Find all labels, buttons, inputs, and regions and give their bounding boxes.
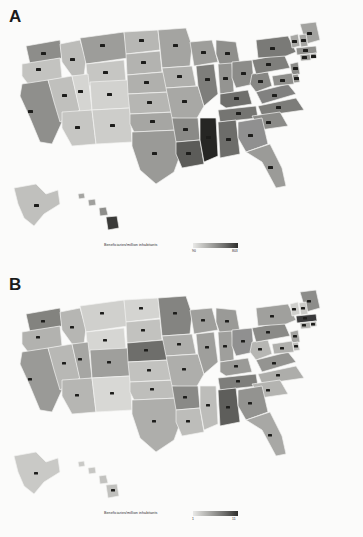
state-marker	[141, 61, 146, 64]
state-mt	[80, 300, 128, 332]
state-marker	[223, 77, 228, 80]
state-marker	[234, 97, 239, 100]
state-marker	[201, 319, 205, 322]
state-hi-3	[99, 475, 108, 484]
state-marker	[78, 358, 82, 361]
states-group-a	[14, 22, 320, 230]
state-marker	[201, 51, 206, 54]
state-marker	[110, 124, 115, 127]
state-ms	[200, 386, 218, 430]
state-marker	[293, 335, 297, 338]
state-marker	[293, 67, 298, 70]
state-marker	[182, 368, 186, 371]
state-marker	[226, 406, 230, 409]
state-marker	[111, 489, 115, 492]
state-marker	[182, 100, 187, 103]
state-marker	[141, 329, 145, 332]
state-marker	[206, 404, 210, 407]
state-marker	[302, 56, 307, 59]
state-marker	[205, 78, 210, 81]
state-hi-2	[88, 199, 96, 206]
state-marker	[236, 112, 241, 115]
state-ny	[256, 304, 296, 326]
panel-a: A	[0, 0, 363, 268]
state-marker	[268, 166, 273, 169]
state-marker	[62, 94, 67, 97]
us-choropleth-a	[0, 18, 363, 250]
state-marker	[139, 39, 144, 42]
state-marker	[258, 80, 263, 83]
state-marker	[272, 362, 276, 365]
state-marker	[28, 378, 32, 381]
state-marker	[147, 369, 151, 372]
state-marker	[110, 392, 114, 395]
state-marker	[276, 106, 281, 109]
state-marker	[186, 420, 190, 423]
state-marker	[280, 79, 285, 82]
state-marker	[28, 110, 33, 113]
state-marker	[152, 420, 156, 423]
state-marker	[266, 331, 270, 334]
state-ms	[200, 118, 218, 162]
state-marker	[173, 312, 177, 315]
state-marker	[266, 63, 271, 66]
state-marker	[177, 75, 182, 78]
legend-title: Beneficiaries/million inhabitants	[104, 242, 157, 248]
state-marker	[270, 47, 275, 50]
legend-max-label: 11	[232, 517, 236, 521]
state-marker	[292, 308, 296, 311]
state-marker	[139, 307, 143, 310]
state-marker	[248, 134, 253, 137]
state-marker	[223, 345, 227, 348]
state-marker	[41, 52, 46, 55]
state-marker	[276, 374, 280, 377]
state-hi-3	[99, 207, 108, 216]
state-marker	[62, 362, 66, 365]
state-nd	[124, 298, 160, 322]
state-marker	[311, 55, 316, 58]
legend-gradient-bar	[193, 243, 238, 248]
state-marker	[241, 340, 245, 343]
states-group-b	[14, 290, 320, 498]
panel-a-map	[0, 18, 363, 250]
state-marker	[186, 152, 191, 155]
state-marker	[70, 58, 75, 61]
state-mn	[158, 28, 192, 68]
state-marker	[177, 343, 181, 346]
panel-b: B	[0, 268, 363, 536]
state-mt	[80, 32, 128, 64]
state-marker	[107, 361, 111, 364]
state-tx	[132, 398, 182, 452]
state-marker	[307, 32, 312, 35]
state-marker	[272, 94, 277, 97]
state-hi-1	[78, 461, 85, 467]
state-marker	[205, 346, 209, 349]
state-marker	[268, 434, 272, 437]
state-marker	[206, 136, 211, 139]
state-marker	[241, 72, 246, 75]
state-marker	[34, 472, 38, 475]
state-marker	[234, 365, 238, 368]
state-marker	[100, 44, 105, 47]
state-marker	[183, 396, 187, 399]
state-marker	[152, 152, 157, 155]
state-marker	[266, 389, 270, 392]
state-marker	[225, 320, 229, 323]
state-marker	[301, 39, 306, 42]
state-marker	[75, 126, 80, 129]
state-marker	[144, 349, 148, 352]
state-marker	[78, 90, 83, 93]
state-marker	[144, 81, 149, 84]
state-ny	[256, 36, 296, 58]
state-marker	[294, 77, 299, 80]
state-marker	[34, 204, 39, 207]
state-marker	[270, 315, 274, 318]
state-marker	[75, 394, 79, 397]
state-marker	[103, 339, 107, 342]
panel-b-legend: Beneficiaries/million inhabitants 1 11	[104, 510, 254, 528]
state-hi-4	[106, 216, 119, 230]
state-marker	[36, 336, 40, 339]
state-marker	[303, 49, 308, 52]
state-marker	[248, 402, 252, 405]
legend-gradient-bar	[193, 511, 238, 516]
